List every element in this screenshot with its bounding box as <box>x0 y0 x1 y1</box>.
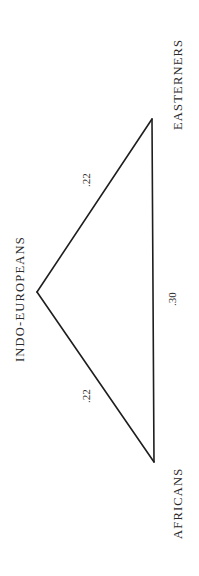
distance-diagram: EASTERNERS INDO-EUROPEANS AFRICANS .22 .… <box>0 0 199 576</box>
edge-africans-easterners <box>152 119 154 462</box>
node-label-easterners: EASTERNERS <box>171 39 185 130</box>
edge-label-indo-europeans-easterners: .22 <box>80 173 92 187</box>
edge-indo-europeans-africans <box>37 292 154 462</box>
edge-indo-europeans-easterners <box>37 119 152 292</box>
edge-label-indo-europeans-africans: .22 <box>80 389 92 403</box>
edge-label-africans-easterners: .30 <box>166 292 178 306</box>
node-label-indo-europeans: INDO-EUROPEANS <box>13 236 27 362</box>
node-label-africans: AFRICANS <box>171 468 185 539</box>
